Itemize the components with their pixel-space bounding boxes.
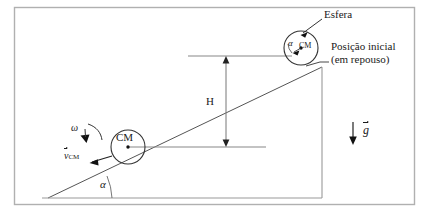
gravity-symbol-text: g — [363, 123, 369, 137]
gravity-vector-symbol: g — [363, 124, 369, 138]
angular-velocity-label: ω — [71, 122, 78, 134]
sphere-angle-label: α — [288, 38, 293, 48]
vector-arrow-overbar-icon — [64, 148, 67, 149]
velocity-symbol-text: v — [64, 150, 68, 161]
velocity-subscript-text: CM — [68, 153, 79, 161]
upper-center-of-mass-label: CM — [299, 41, 311, 50]
esfera-label: Esfera — [324, 8, 352, 21]
figure-frame — [15, 8, 415, 205]
angular-velocity-stem — [85, 129, 86, 137]
physics-diagram-figure: Esfera Posição inicial (em repouso) H α … — [0, 0, 429, 214]
gravity-vector-label: g — [363, 124, 369, 138]
diagram-canvas — [0, 0, 429, 214]
velocity-vector-symbol: v — [64, 150, 68, 162]
lower-center-of-mass-label: CM — [116, 131, 133, 144]
height-label: H — [206, 95, 214, 108]
incline-angle-label: α — [100, 178, 106, 191]
gravity-overbar-icon — [363, 122, 368, 123]
lower-sphere-center-dot — [126, 145, 129, 148]
initial-position-line1: Posição inicial — [331, 40, 395, 52]
velocity-vector-label: vCM — [64, 150, 79, 162]
initial-position-label: Posição inicial (em repouso) — [331, 40, 395, 65]
initial-position-line2: (em repouso) — [331, 53, 395, 66]
